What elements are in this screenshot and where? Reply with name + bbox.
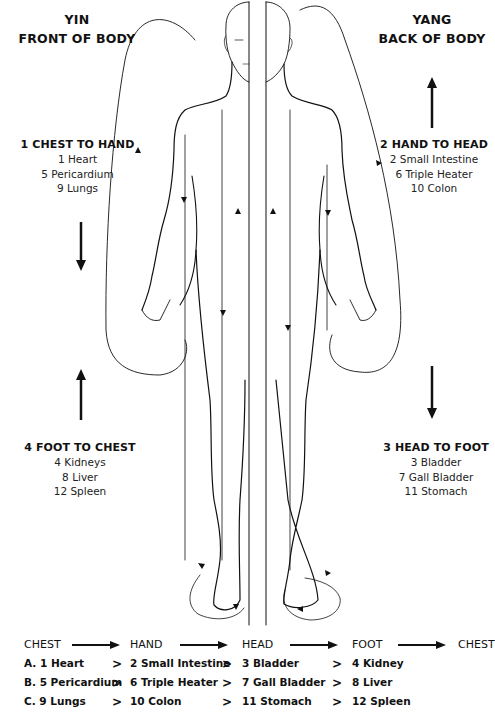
flow-cell: 6 Triple Heater bbox=[130, 676, 218, 688]
group-item: 1 Heart bbox=[10, 152, 145, 167]
group-head-to-foot: 3 HEAD TO FOOT 3 Bladder 7 Gall Bladder … bbox=[380, 441, 492, 499]
group-item: 3 Bladder bbox=[380, 455, 492, 470]
group-chest-to-hand: 1 CHEST TO HAND 1 Heart 5 Pericardium 9 … bbox=[10, 138, 145, 196]
flow-header-cell: HAND bbox=[130, 638, 163, 651]
group-hand-to-head: 2 HAND TO HEAD 2 Small Intestine 6 Tripl… bbox=[376, 138, 492, 196]
flow-cell: 12 Spleen bbox=[352, 695, 411, 707]
path-arrow-down-icon bbox=[198, 563, 205, 569]
group-item: 7 Gall Bladder bbox=[380, 470, 492, 485]
flow-cell: B. 5 Pericardium bbox=[24, 676, 122, 688]
flow-cell: A. 1 Heart bbox=[24, 657, 84, 669]
group-title: 3 HEAD TO FOOT bbox=[380, 441, 492, 455]
flow-arrow-icon bbox=[180, 641, 228, 649]
flow-separator: > bbox=[112, 695, 122, 709]
flow-separator: > bbox=[222, 657, 232, 671]
flow-separator: > bbox=[332, 695, 342, 709]
group-item: 11 Stomach bbox=[380, 484, 492, 499]
arrow-down-icon bbox=[427, 408, 437, 419]
flow-separator: > bbox=[332, 676, 342, 690]
path-arrow-down-icon bbox=[325, 210, 331, 216]
arrow-up-icon bbox=[427, 77, 437, 88]
flow-separator: > bbox=[222, 695, 232, 709]
group-item: 8 Liver bbox=[18, 470, 142, 485]
path-arrow-down-icon bbox=[220, 310, 226, 316]
flow-separator: > bbox=[222, 676, 232, 690]
arrow-down-icon bbox=[76, 260, 86, 271]
flow-header-cell: HEAD bbox=[242, 638, 273, 651]
flow-cell: 7 Gall Bladder bbox=[242, 676, 326, 688]
group-title: 4 FOOT TO CHEST bbox=[18, 441, 142, 455]
flow-arrow-icon bbox=[290, 641, 338, 649]
flow-cell: 4 Kidney bbox=[352, 657, 404, 669]
group-item: 5 Pericardium bbox=[10, 167, 145, 182]
group-title: 2 HAND TO HEAD bbox=[376, 138, 492, 152]
flow-arrow-icon bbox=[398, 641, 446, 649]
flow-cell: 10 Colon bbox=[130, 695, 181, 707]
group-item: 6 Triple Heater bbox=[376, 167, 492, 182]
path-arrow-down-icon bbox=[181, 197, 187, 203]
group-item: 4 Kidneys bbox=[18, 455, 142, 470]
group-item: 10 Colon bbox=[376, 181, 492, 196]
group-title: 1 CHEST TO HAND bbox=[10, 138, 145, 152]
group-item: 9 Lungs bbox=[10, 181, 145, 196]
flow-header-cell: FOOT bbox=[352, 638, 382, 651]
arrow-up-icon bbox=[76, 369, 86, 380]
group-foot-to-chest: 4 FOOT TO CHEST 4 Kidneys 8 Liver 12 Spl… bbox=[18, 441, 142, 499]
flow-cell: 11 Stomach bbox=[242, 695, 312, 707]
group-item: 12 Spleen bbox=[18, 484, 142, 499]
path-arrow-up-icon bbox=[235, 208, 241, 214]
flow-arrow-icon bbox=[72, 641, 120, 649]
flow-separator: > bbox=[112, 657, 122, 671]
flow-cell: 8 Liver bbox=[352, 676, 392, 688]
flow-header-cell: CHEST bbox=[24, 638, 61, 651]
flow-cell: 2 Small Intestine bbox=[130, 657, 230, 669]
flow-separator: > bbox=[112, 676, 122, 690]
path-arrow-right-icon bbox=[325, 570, 331, 576]
group-item: 2 Small Intestine bbox=[376, 152, 492, 167]
flow-separator: > bbox=[332, 657, 342, 671]
body-figure-diagram bbox=[0, 0, 495, 718]
path-arrow-up-icon bbox=[270, 208, 276, 214]
flow-cell: C. 9 Lungs bbox=[24, 695, 86, 707]
flow-header-cell: CHEST bbox=[458, 638, 495, 651]
flow-cell: 3 Bladder bbox=[242, 657, 299, 669]
